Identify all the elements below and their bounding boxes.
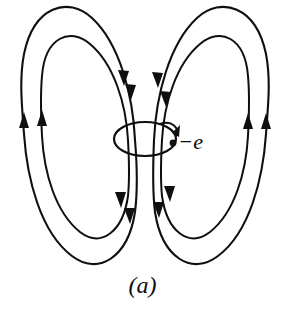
electron-dot: [170, 140, 177, 147]
figure-container: −e (a): [0, 0, 285, 319]
arrowhead-right-inner-inner-down-lower: [164, 186, 175, 202]
left-outer-field-loop: [19, 7, 137, 264]
right-inner-field-loop: [160, 36, 253, 238]
arrowhead-left-outer-up: [19, 112, 29, 128]
electron-orbit-ellipse: [114, 122, 176, 156]
arrowhead-left-inner-up: [37, 110, 47, 126]
left-inner-loop-path: [41, 36, 129, 238]
arrowhead-left-inner-inner-down-lower: [115, 192, 126, 208]
left-inner-field-loop: [37, 36, 129, 238]
charge-label: −e: [178, 131, 204, 153]
arrowhead-right-outer-up: [261, 113, 271, 129]
figure-caption: (a): [0, 272, 285, 299]
arrowhead-left-outer-inner-down-upper: [125, 84, 136, 100]
right-outer-field-loop: [152, 7, 271, 264]
electron-orbit: [114, 122, 180, 156]
arrowhead-right-inner-up: [243, 113, 253, 129]
right-outer-loop-path: [153, 7, 269, 264]
right-inner-loop-path: [161, 36, 249, 238]
left-outer-loop-path: [21, 7, 137, 264]
